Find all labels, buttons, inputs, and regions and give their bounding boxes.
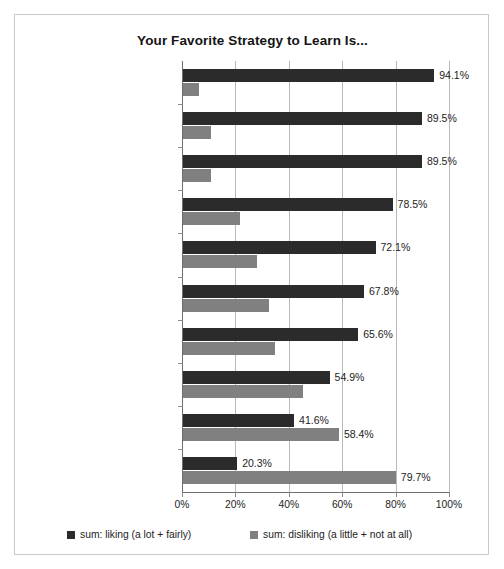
chart-title: Your Favorite Strategy to Learn Is... bbox=[15, 33, 490, 48]
bar-value-label: 20.3% bbox=[242, 457, 272, 470]
bar-liking bbox=[183, 112, 422, 125]
bar-disliking bbox=[183, 169, 211, 182]
x-axis-tick-label: 100% bbox=[436, 499, 462, 510]
category-tick bbox=[178, 363, 183, 364]
gridline bbox=[449, 61, 450, 492]
bar-value-label: 79.7% bbox=[401, 471, 431, 484]
x-axis-tick-label: 80% bbox=[385, 499, 406, 510]
x-axis-tick-label: 0% bbox=[175, 499, 190, 510]
bar-liking bbox=[183, 414, 294, 427]
bar-disliking bbox=[183, 126, 211, 139]
category-tick bbox=[178, 277, 183, 278]
bar-disliking bbox=[183, 212, 240, 225]
category-tick bbox=[178, 320, 183, 321]
bar-disliking bbox=[183, 255, 257, 268]
bar-liking bbox=[183, 198, 393, 211]
bar-liking bbox=[183, 371, 330, 384]
bar-liking bbox=[183, 241, 376, 254]
x-axis-tick-label: 40% bbox=[278, 499, 299, 510]
x-axis-tick bbox=[396, 492, 397, 497]
x-axis-tick bbox=[342, 492, 343, 497]
legend-label: sum: disliking (a little + not at all) bbox=[263, 529, 412, 540]
bar-liking bbox=[183, 69, 434, 82]
legend-item: sum: disliking (a little + not at all) bbox=[250, 529, 412, 540]
legend-swatch bbox=[250, 531, 258, 539]
x-axis-tick bbox=[182, 492, 183, 497]
bar-liking bbox=[183, 285, 364, 298]
legend-swatch bbox=[67, 531, 75, 539]
gridline bbox=[396, 61, 397, 492]
bar-value-label: 58.4% bbox=[344, 428, 374, 441]
bar-liking bbox=[183, 155, 422, 168]
bar-value-label: 89.5% bbox=[427, 112, 457, 125]
category-tick bbox=[178, 190, 183, 191]
bar-disliking bbox=[183, 385, 303, 398]
category-tick bbox=[178, 406, 183, 407]
chart-legend: sum: liking (a lot + fairly)sum: disliki… bbox=[15, 529, 490, 549]
plot-area: 94.1%Lectures in classroom89.5%Individua… bbox=[182, 61, 449, 492]
x-axis-tick bbox=[235, 492, 236, 497]
legend-label: sum: liking (a lot + fairly) bbox=[80, 529, 191, 540]
chart-frame: Your Favorite Strategy to Learn Is... 94… bbox=[14, 14, 489, 555]
bar-value-label: 67.8% bbox=[369, 285, 399, 298]
bar-value-label: 94.1% bbox=[439, 69, 469, 82]
category-tick bbox=[178, 233, 183, 234]
bar-disliking bbox=[183, 428, 339, 441]
category-tick bbox=[178, 147, 183, 148]
x-axis-tick-label: 60% bbox=[332, 499, 353, 510]
bar-disliking bbox=[183, 342, 275, 355]
bar-value-label: 72.1% bbox=[381, 241, 411, 254]
category-tick bbox=[178, 449, 183, 450]
x-axis-tick bbox=[289, 492, 290, 497]
category-tick bbox=[178, 104, 183, 105]
bar-value-label: 41.6% bbox=[299, 414, 329, 427]
bar-disliking bbox=[183, 471, 396, 484]
bar-liking bbox=[183, 328, 358, 341]
x-axis-tick-label: 20% bbox=[225, 499, 246, 510]
x-axis-line: 0%20%40%60%80%100% bbox=[182, 492, 449, 493]
bar-disliking bbox=[183, 299, 269, 312]
x-axis-tick bbox=[449, 492, 450, 497]
bar-value-label: 54.9% bbox=[335, 371, 365, 384]
legend-item: sum: liking (a lot + fairly) bbox=[67, 529, 191, 540]
bar-value-label: 65.6% bbox=[363, 328, 393, 341]
bar-liking bbox=[183, 457, 237, 470]
bar-value-label: 89.5% bbox=[427, 155, 457, 168]
bar-value-label: 78.5% bbox=[398, 198, 428, 211]
bar-disliking bbox=[183, 83, 199, 96]
